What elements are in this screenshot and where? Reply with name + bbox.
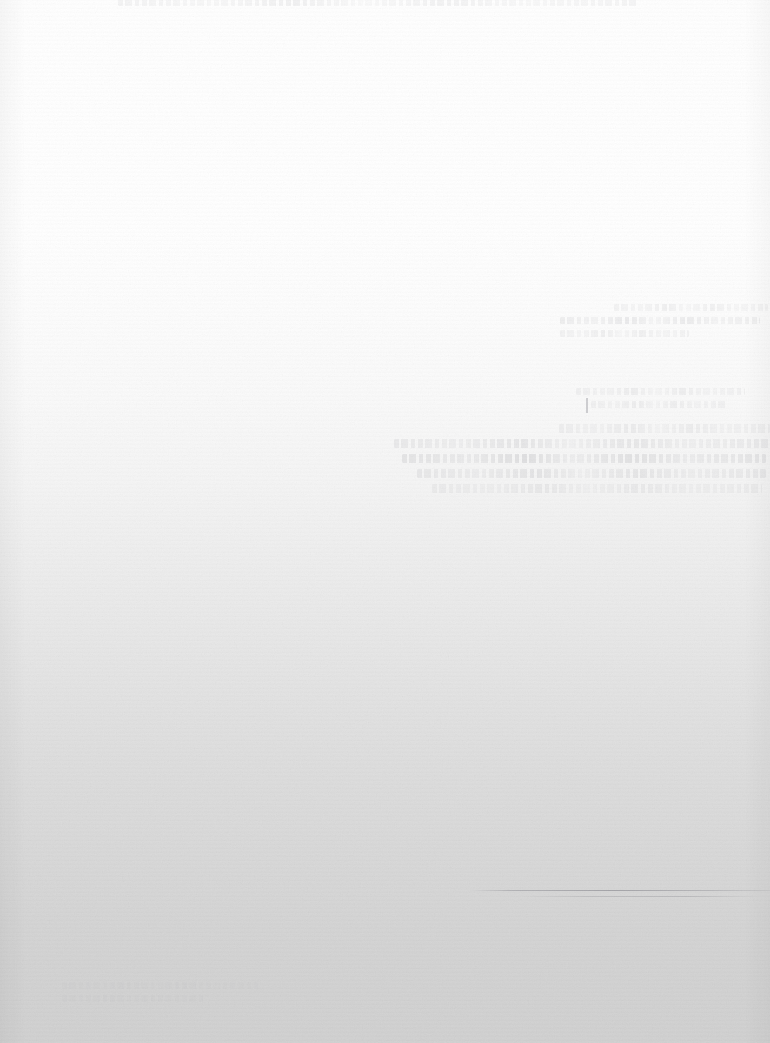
page-edge-vignette (0, 0, 770, 1043)
horizontal-rule (470, 890, 770, 891)
stray-ink-mark (586, 398, 588, 413)
document-page (0, 0, 770, 1043)
horizontal-rule-secondary (520, 896, 760, 897)
faint-smudge (62, 982, 258, 1004)
